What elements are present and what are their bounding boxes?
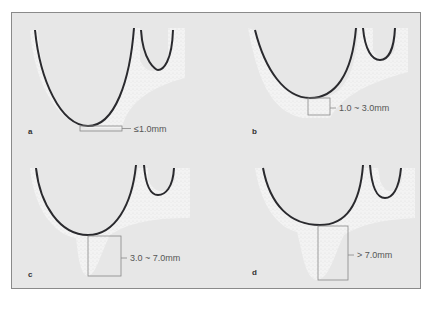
measurement-d: > 7.0mm bbox=[357, 250, 392, 260]
panel-a bbox=[30, 28, 185, 131]
panel-label-b: b bbox=[252, 127, 257, 136]
panel-label-a: a bbox=[28, 127, 32, 136]
panel-d bbox=[255, 165, 415, 280]
panel-label-d: d bbox=[252, 268, 257, 277]
measurement-b: 1.0 ~ 3.0mm bbox=[339, 103, 389, 113]
measurement-a: ≤1.0mm bbox=[134, 124, 166, 134]
measurement-c: 3.0 ~ 7.0mm bbox=[130, 253, 180, 263]
bone-region bbox=[255, 168, 415, 280]
diagram-canvas bbox=[0, 0, 428, 309]
bone-region bbox=[30, 28, 185, 128]
panel-label-c: c bbox=[28, 270, 32, 279]
